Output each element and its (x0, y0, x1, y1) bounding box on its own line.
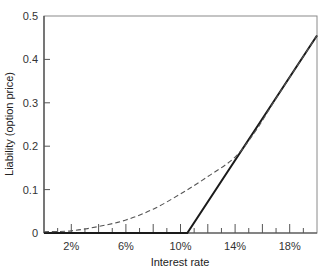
plot-border (44, 16, 317, 233)
y-tick-label: 0 (32, 227, 38, 239)
x-tick-label: 6% (118, 240, 134, 252)
series-layer (44, 36, 317, 233)
solid-payoff-line (44, 36, 317, 233)
y-tick-label: 0.4 (23, 53, 38, 65)
plot-frame (44, 16, 317, 233)
y-tick-label: 0.1 (23, 184, 38, 196)
y-axis-ticks: 00.10.20.30.40.5 (23, 10, 50, 239)
x-tick-label: 18% (279, 240, 301, 252)
chart: 2%6%10%14%18% 00.10.20.30.40.5 Interest … (0, 0, 323, 272)
x-axis-title: Interest rate (151, 256, 210, 268)
y-tick-label: 0.3 (23, 97, 38, 109)
x-tick-label: 10% (169, 240, 191, 252)
y-tick-label: 0.2 (23, 140, 38, 152)
x-axis-ticks: 2%6%10%14%18% (58, 224, 304, 252)
x-tick-label: 14% (224, 240, 246, 252)
y-tick-label: 0.5 (23, 10, 38, 22)
x-tick-label: 2% (63, 240, 79, 252)
dashed-option-value-curve (44, 36, 317, 232)
y-axis-title: Liability (option price) (3, 72, 15, 176)
